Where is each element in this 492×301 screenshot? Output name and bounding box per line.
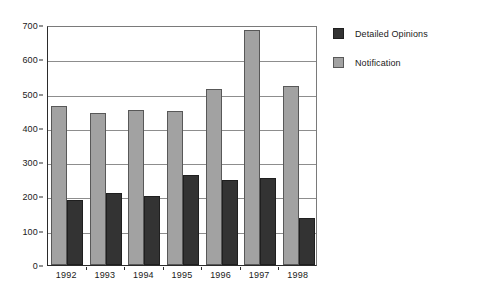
x-tick-mark-1994 <box>124 267 125 270</box>
x-tick-label-1993: 1993 <box>94 270 115 280</box>
bars-layer <box>48 27 316 265</box>
bar-1994-notification <box>128 110 144 265</box>
legend-label-notification: Notification <box>355 58 401 68</box>
x-tick-label-1997: 1997 <box>249 270 270 280</box>
bar-1992-detailed-opinions <box>67 200 83 265</box>
x-tick-label-1996: 1996 <box>210 270 231 280</box>
y-tick-label-700: 700 <box>22 22 38 31</box>
y-tick-mark-500 <box>39 94 43 95</box>
legend-item-notification: Notification <box>333 57 483 68</box>
bar-1997-notification <box>244 30 260 265</box>
x-axis: 1992199319941995199619971998 <box>47 270 317 286</box>
y-tick-mark-600 <box>39 60 43 61</box>
bar-1993-detailed-opinions <box>106 193 122 265</box>
y-tick-label-600: 600 <box>22 56 38 65</box>
legend-swatch-notification <box>333 57 344 68</box>
y-tick-label-500: 500 <box>22 90 38 99</box>
y-tick-mark-400 <box>39 128 43 129</box>
bar-1992-notification <box>51 106 67 265</box>
legend-label-detailed-opinions: Detailed Opinions <box>355 29 428 39</box>
bar-1993-notification <box>90 113 106 265</box>
y-axis: 0100200300400500600700 <box>0 26 43 266</box>
x-tick-mark-1997 <box>240 267 241 270</box>
bar-1994-detailed-opinions <box>144 196 160 265</box>
bar-1998-notification <box>283 86 299 265</box>
x-tick-mark-1996 <box>201 267 202 270</box>
y-tick-mark-0 <box>39 266 43 267</box>
legend-swatch-detailed-opinions <box>333 28 344 39</box>
y-tick-mark-100 <box>39 231 43 232</box>
y-tick-mark-700 <box>39 26 43 27</box>
bar-1997-detailed-opinions <box>260 178 276 265</box>
bar-1998-detailed-opinions <box>299 218 315 265</box>
bar-1995-detailed-opinions <box>183 175 199 266</box>
y-tick-mark-300 <box>39 163 43 164</box>
bar-1995-notification <box>167 111 183 265</box>
plot-area <box>47 26 317 266</box>
y-tick-label-300: 300 <box>22 159 38 168</box>
chart-legend: Detailed OpinionsNotification <box>333 28 483 86</box>
x-tick-mark-1998 <box>278 267 279 270</box>
x-tick-label-1995: 1995 <box>172 270 193 280</box>
x-tick-label-1994: 1994 <box>133 270 154 280</box>
legend-item-detailed-opinions: Detailed Opinions <box>333 28 483 39</box>
bar-1996-notification <box>206 89 222 265</box>
x-tick-label-1992: 1992 <box>56 270 77 280</box>
y-tick-label-200: 200 <box>22 193 38 202</box>
x-tick-label-1998: 1998 <box>287 270 308 280</box>
y-tick-mark-200 <box>39 197 43 198</box>
x-tick-mark-1993 <box>86 267 87 270</box>
y-tick-label-400: 400 <box>22 124 38 133</box>
bar-chart: 0100200300400500600700 19921993199419951… <box>0 0 492 301</box>
y-tick-label-0: 0 <box>33 262 38 271</box>
y-tick-label-100: 100 <box>22 227 38 236</box>
x-tick-mark-1995 <box>163 267 164 270</box>
bar-1996-detailed-opinions <box>222 180 238 265</box>
